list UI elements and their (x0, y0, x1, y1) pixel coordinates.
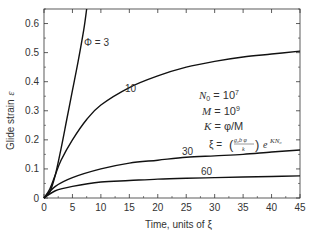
svg-text:N0 = 107: N0 = 107 (198, 89, 239, 102)
curves (44, 9, 300, 198)
curve-label-phi3: Φ = 3 (84, 37, 109, 48)
svg-text:k: k (242, 146, 245, 152)
svg-text:0: 0 (41, 202, 47, 213)
svg-text:40: 40 (266, 202, 278, 213)
chart: 051015202530354045 00.10.20.30.40.50.6 Φ… (0, 0, 311, 235)
svg-text:M = 109: M = 109 (201, 105, 240, 117)
curve-60 (44, 176, 300, 198)
svg-text:0.2: 0.2 (25, 134, 39, 145)
svg-text:35: 35 (238, 202, 250, 213)
svg-text:ξ =: ξ = (209, 139, 222, 151)
curve-label-60: 60 (201, 166, 213, 177)
svg-text:15: 15 (124, 202, 136, 213)
parameter-annotation: N0 = 107 M = 109 K = φ/M ξ = ( g₀b φ k )… (198, 89, 282, 152)
curve-3 (44, 9, 87, 198)
x-axis-label: Time, units of ξ (145, 219, 212, 231)
svg-text:0.6: 0.6 (25, 18, 39, 29)
y-axis-label: Glide strainε (5, 91, 16, 150)
svg-text:45: 45 (294, 202, 306, 213)
curve-label-10: 10 (125, 83, 137, 94)
x-axis-ticks: 051015202530354045 (41, 9, 306, 213)
svg-text:g₀b φ: g₀b φ (234, 137, 248, 143)
svg-text:0.4: 0.4 (25, 76, 39, 87)
svg-text:10: 10 (95, 202, 107, 213)
svg-text:): ) (255, 137, 259, 152)
svg-text:e: e (263, 139, 268, 150)
svg-text:0: 0 (33, 193, 39, 204)
svg-text:0.5: 0.5 (25, 47, 39, 58)
y-axis-ticks: 00.10.20.30.40.50.6 (25, 9, 300, 204)
svg-text:K = φ/M: K = φ/M (203, 120, 243, 132)
svg-text:20: 20 (152, 202, 164, 213)
curve-10 (44, 51, 300, 198)
svg-text:KN₀: KN₀ (269, 137, 282, 145)
curve-30 (44, 150, 300, 198)
svg-text:0.3: 0.3 (25, 105, 39, 116)
svg-text:0.1: 0.1 (25, 163, 39, 174)
svg-text:5: 5 (70, 202, 76, 213)
svg-text:30: 30 (209, 202, 221, 213)
curve-label-30: 30 (182, 146, 194, 157)
svg-text:25: 25 (181, 202, 193, 213)
